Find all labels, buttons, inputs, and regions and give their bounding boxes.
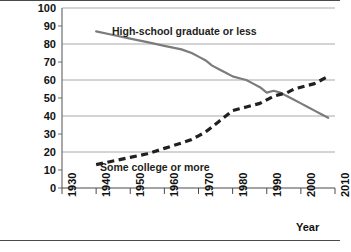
- series-label-some-college: Some college or more: [100, 161, 210, 173]
- x-tick-label-1970: 1970: [203, 173, 215, 197]
- x-tick-label-2010: 2010: [339, 173, 351, 197]
- x-tick-label-1930: 1930: [66, 173, 78, 197]
- x-tick-label-1990: 1990: [271, 173, 283, 197]
- x-tick-label-1960: 1960: [168, 173, 180, 197]
- x-axis-title: Year: [296, 221, 319, 233]
- x-tick-label-1940: 1940: [100, 173, 112, 197]
- x-tick-label-1950: 1950: [134, 173, 146, 197]
- x-tick-label-1980: 1980: [237, 173, 249, 197]
- data-series-group: [96, 31, 328, 164]
- x-tick-label-2000: 2000: [305, 173, 317, 197]
- series-label-high-school: High-school graduate or less: [112, 25, 257, 37]
- series-line-some-college: [96, 76, 328, 164]
